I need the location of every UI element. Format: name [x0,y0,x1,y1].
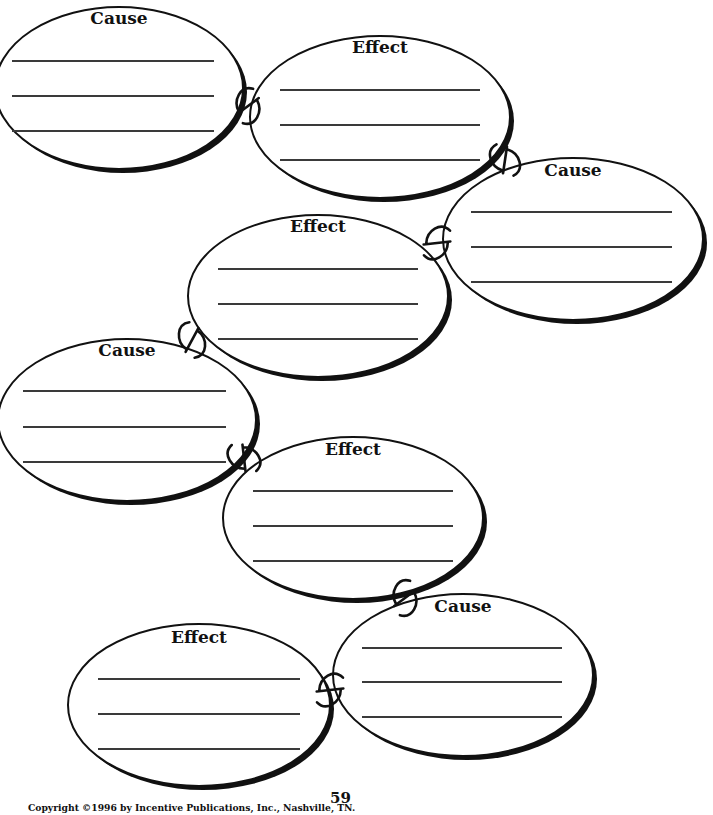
oval-label-cause: Cause [90,10,147,27]
write-in-line[interactable] [471,211,672,213]
oval-cause-5 [0,339,260,505]
write-in-line[interactable] [253,490,453,492]
write-in-line[interactable] [253,525,453,527]
oval-outline [443,158,703,320]
oval-outline [333,594,593,756]
write-in-line[interactable] [12,95,214,97]
oval-effect-8 [68,624,334,790]
write-in-line[interactable] [362,681,562,683]
write-in-line[interactable] [253,560,453,562]
oval-label-cause: Cause [544,162,601,179]
write-in-line[interactable] [98,713,300,715]
oval-effect-2 [250,36,514,202]
worksheet-drawing [0,0,713,815]
write-in-line[interactable] [12,130,214,132]
write-in-line[interactable] [362,716,562,718]
oval-cause-3 [443,158,707,324]
copyright-notice: Copyright ©1996 by Incentive Publication… [28,802,355,813]
oval-label-effect: Effect [352,39,408,56]
write-in-line[interactable] [280,159,480,161]
oval-label-effect: Effect [290,218,346,235]
write-in-line[interactable] [98,678,300,680]
oval-label-effect: Effect [171,629,227,646]
oval-label-cause: Cause [434,598,491,615]
write-in-line[interactable] [218,303,418,305]
oval-effect-4 [188,215,452,381]
write-in-line[interactable] [218,338,418,340]
write-in-line[interactable] [471,281,672,283]
oval-outline [188,215,448,377]
oval-outline [250,36,510,198]
oval-outline [68,624,330,786]
write-in-line[interactable] [12,60,214,62]
oval-cause-1 [0,7,247,173]
write-in-line[interactable] [23,426,226,428]
write-in-line[interactable] [280,89,480,91]
write-in-line[interactable] [23,461,226,463]
oval-outline [0,7,243,169]
oval-outline [0,339,256,501]
oval-label-effect: Effect [325,441,381,458]
write-in-line[interactable] [98,748,300,750]
write-in-line[interactable] [23,390,226,392]
oval-label-cause: Cause [98,342,155,359]
write-in-line[interactable] [280,124,480,126]
write-in-line[interactable] [471,246,672,248]
oval-cause-7 [333,594,597,760]
oval-outline [223,437,483,599]
oval-effect-6 [223,437,487,603]
write-in-line[interactable] [362,647,562,649]
write-in-line[interactable] [218,268,418,270]
